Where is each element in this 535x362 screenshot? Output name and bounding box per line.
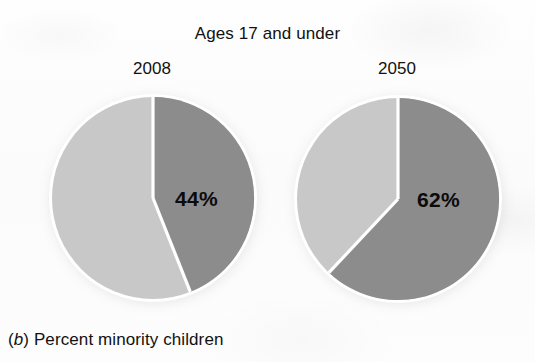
pie-svg-2008 [47,92,259,304]
pie-body-2050 [292,93,504,305]
caption-letter: b [14,330,24,349]
pie-value-label-2050: 62% [417,188,460,212]
pie-year-label-2050: 2050 [337,59,457,79]
pie-chart-2050: 2050 62% [245,0,535,320]
pie-svg-2050 [292,93,504,305]
figure-caption: (b) Percent minority children [8,330,224,350]
pie-body-2008 [47,92,259,304]
pie-year-label-2008: 2008 [92,59,212,79]
caption-suffix: ) Percent minority children [23,330,223,349]
figure-panel: Ages 17 and under 2008 44% 2050 [0,0,535,362]
pie-value-label-2008: 44% [175,187,218,211]
